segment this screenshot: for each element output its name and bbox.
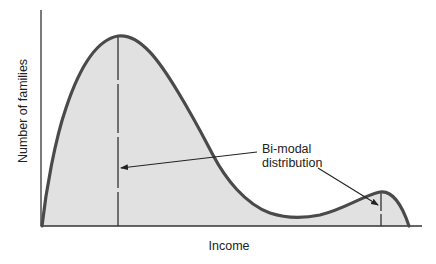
bimodal-distribution-chart xyxy=(0,0,436,264)
bimodal-annotation: Bi-modal distribution xyxy=(262,142,322,170)
x-axis-label: Income xyxy=(209,239,250,253)
annotation-line-2: distribution xyxy=(262,156,322,170)
distribution-area-fill xyxy=(42,36,409,226)
y-axis-label: Number of families xyxy=(16,59,30,163)
annotation-line-1: Bi-modal xyxy=(262,142,322,156)
arrow-to-secondary-mode xyxy=(318,168,378,205)
